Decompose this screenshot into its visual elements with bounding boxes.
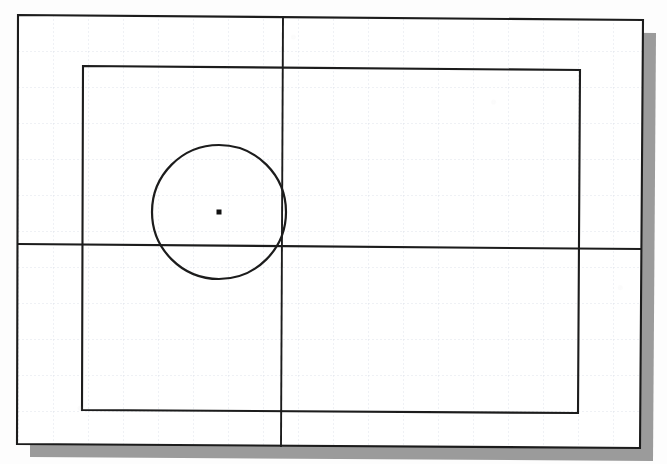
drawing-svg[interactable] [0,0,667,464]
drawing-canvas[interactable] [0,0,667,464]
circle-center-point[interactable] [217,210,222,215]
snap-grid [18,15,644,449]
